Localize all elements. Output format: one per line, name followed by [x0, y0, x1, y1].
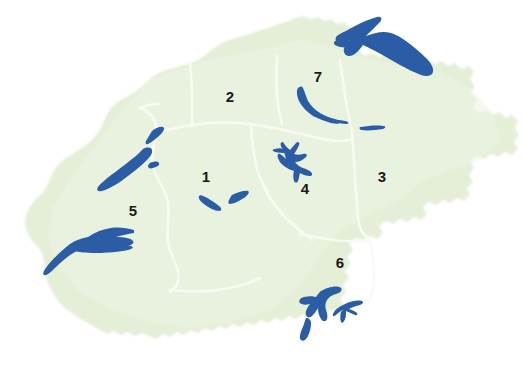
region-label-1[interactable]: 1	[202, 168, 210, 185]
region-label-5[interactable]: 5	[129, 202, 137, 219]
boundary-region6-east	[368, 239, 374, 304]
region-label-3[interactable]: 3	[378, 168, 386, 185]
region-label-6[interactable]: 6	[336, 254, 344, 271]
region-label-7[interactable]: 7	[314, 68, 322, 85]
map-container: 1 2 3 4 5 6 7	[0, 0, 525, 378]
region-label-2[interactable]: 2	[226, 88, 234, 105]
region-label-4[interactable]: 4	[301, 180, 310, 197]
lake-maggiore-south	[300, 318, 311, 341]
switzerland-map: 1 2 3 4 5 6 7	[0, 0, 525, 378]
